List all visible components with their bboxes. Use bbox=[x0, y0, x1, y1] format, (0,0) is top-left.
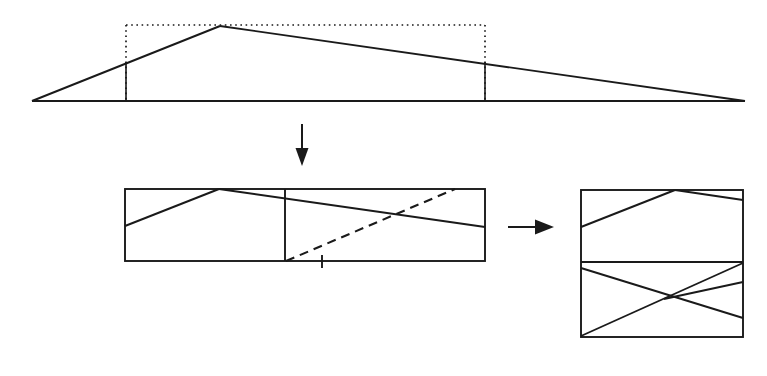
arrow-down bbox=[296, 124, 309, 166]
result-lower-line-1 bbox=[581, 268, 743, 318]
geometry-diagram bbox=[0, 0, 767, 376]
panel-triangle bbox=[32, 25, 745, 101]
result-lower-line-3 bbox=[664, 282, 743, 299]
middle-diagonal-up bbox=[125, 189, 219, 226]
result-upper-line-1 bbox=[581, 190, 675, 227]
panel-right bbox=[581, 190, 743, 337]
result-lower-line-2 bbox=[581, 263, 743, 336]
triangle-right-side bbox=[220, 26, 745, 101]
dotted-rectangle bbox=[126, 25, 485, 101]
arrow-down-head bbox=[296, 148, 309, 166]
result-upper-line-2 bbox=[675, 190, 743, 200]
middle-dashed-diagonal bbox=[286, 189, 455, 261]
result-block-outline bbox=[581, 190, 743, 337]
arrow-right-head bbox=[535, 220, 554, 235]
arrow-right bbox=[508, 220, 554, 235]
diagram-canvas bbox=[0, 0, 767, 376]
panel-middle bbox=[125, 189, 485, 268]
middle-diagonal-down bbox=[219, 189, 485, 227]
